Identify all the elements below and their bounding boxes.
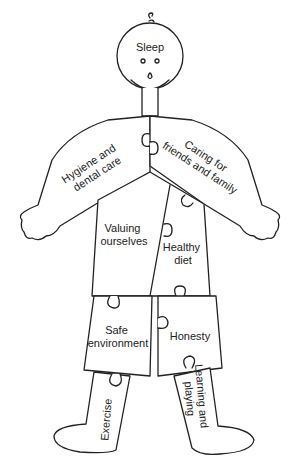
neck (142, 88, 158, 116)
torso-left-label-1: Valuing (105, 222, 141, 234)
left-leg-piece: Exercise (54, 372, 130, 453)
hair-curl-icon (149, 13, 154, 22)
shorts-left-label-2: environment (88, 337, 149, 349)
shorts-right-label: Honesty (170, 330, 211, 342)
right-leg-piece: Learning and playing (174, 364, 254, 455)
svg-text:Valuing ourselves: Valuing ourselves (100, 222, 148, 247)
head-piece: Sleep (117, 23, 183, 89)
torso-right-label-2: diet (174, 254, 192, 266)
head-label: Sleep (136, 41, 164, 53)
wellbeing-puzzle-figure: Sleep Hygiene and dental care Caring for… (0, 0, 300, 469)
torso-right-label-1: Healthy (163, 241, 201, 253)
torso-left-label-2: ourselves (100, 235, 148, 247)
shorts-left-label-1: Safe (105, 324, 128, 336)
